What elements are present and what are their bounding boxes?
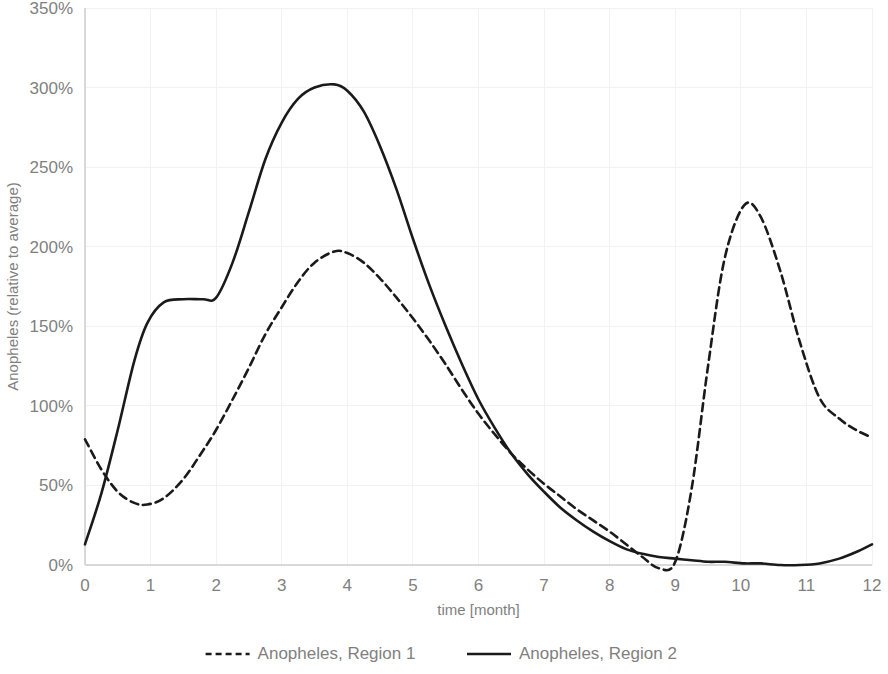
x-tick-label: 8 — [605, 576, 614, 595]
y-tick-label: 350% — [30, 0, 73, 18]
x-tick-label: 0 — [80, 576, 89, 595]
x-tick-label: 5 — [408, 576, 417, 595]
y-axis-title: Anopheles (relative to average) — [4, 182, 21, 390]
x-tick-label: 10 — [731, 576, 750, 595]
x-tick-label: 11 — [798, 576, 816, 595]
y-tick-label: 300% — [30, 79, 73, 98]
x-tick-label: 9 — [671, 576, 680, 595]
x-tick-label: 1 — [146, 576, 155, 595]
y-tick-label: 50% — [39, 476, 73, 495]
x-tick-labels: 0123456789101112 — [80, 576, 881, 595]
y-tick-label: 250% — [30, 158, 73, 177]
x-tick-label: 6 — [474, 576, 483, 595]
legend-label-1: Anopheles, Region 1 — [258, 644, 416, 663]
x-tick-label: 4 — [343, 576, 352, 595]
chart-container: 0%50%100%150%200%250%300%350% 0123456789… — [0, 0, 888, 674]
x-tick-label: 12 — [863, 576, 882, 595]
y-tick-label: 200% — [30, 238, 73, 257]
x-tick-label: 3 — [277, 576, 286, 595]
x-axis-title: time [month] — [437, 601, 520, 618]
chart-legend: Anopheles, Region 1Anopheles, Region 2 — [206, 644, 677, 663]
line-chart: 0%50%100%150%200%250%300%350% 0123456789… — [0, 0, 888, 674]
y-tick-labels: 0%50%100%150%200%250%300%350% — [30, 0, 73, 575]
y-tick-label: 150% — [30, 317, 73, 336]
grid-layer — [85, 8, 872, 565]
x-tick-label: 7 — [539, 576, 548, 595]
legend-label-2: Anopheles, Region 2 — [519, 644, 677, 663]
y-tick-label: 0% — [48, 556, 73, 575]
y-tick-label: 100% — [30, 397, 73, 416]
x-tick-label: 2 — [211, 576, 220, 595]
